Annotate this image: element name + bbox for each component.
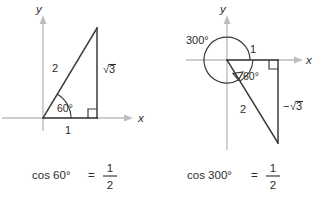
left-horizontal-label: 1 [65, 124, 71, 136]
left-caption-fraction: 1 2 [103, 162, 117, 191]
right-caption-expression: cos 300° [187, 169, 232, 181]
svg-text:2: 2 [107, 179, 113, 191]
svg-text:3: 3 [296, 100, 302, 112]
left-caption-equals: = [88, 169, 95, 181]
left-right-angle-marker [88, 109, 97, 118]
svg-text:1: 1 [270, 162, 276, 174]
right-angle-label: 60° [243, 70, 259, 82]
right-hypotenuse-label: 2 [240, 103, 246, 115]
trigonometry-figure: y x 2 √ 3 1 [0, 0, 318, 198]
left-caption-expression: cos 60° [32, 169, 70, 181]
left-vertical-label: √ 3 [103, 63, 116, 75]
svg-text:1: 1 [107, 162, 113, 174]
right-caption-fraction: 1 2 [266, 162, 280, 191]
svg-text:2: 2 [270, 179, 276, 191]
left-hypotenuse-label: 2 [52, 62, 58, 74]
left-y-axis-label: y [35, 3, 43, 15]
right-x-axis-label: x [305, 54, 313, 66]
left-angle-label: 60° [57, 102, 73, 114]
cos-60-diagram: y x 2 √ 3 1 [2, 3, 145, 191]
right-right-angle-marker [269, 60, 278, 69]
left-x-axis-label: x [137, 112, 145, 124]
right-vertical-label: − √ 3 [283, 100, 303, 112]
svg-text:3: 3 [109, 63, 115, 75]
cos-300-diagram: y x 300° 1 60° 2 [186, 3, 313, 191]
right-y-axis-label: y [219, 3, 227, 15]
right-horizontal-label: 1 [250, 43, 256, 55]
right-rotation-label: 300° [186, 34, 209, 46]
left-caption: cos 60° = 1 2 [32, 162, 117, 191]
right-caption: cos 300° = 1 2 [187, 162, 280, 191]
svg-text:−: − [283, 100, 289, 112]
right-caption-equals: = [251, 169, 258, 181]
